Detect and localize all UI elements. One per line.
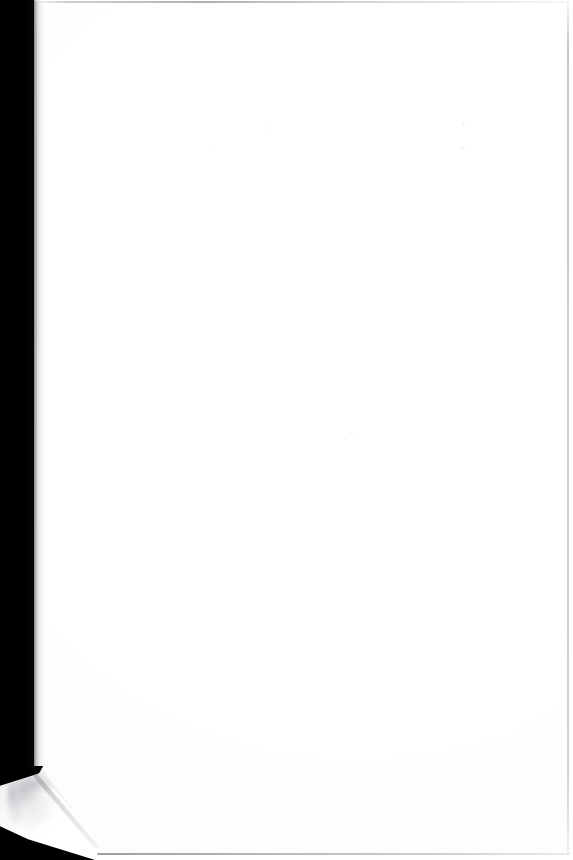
scan-speck — [212, 147, 215, 149]
page-left-edge — [36, 3, 37, 773]
scan-speck — [350, 432, 353, 434]
page-right-edge — [567, 2, 569, 854]
scan-speck — [266, 127, 268, 129]
scanned-page-canvas — [0, 0, 573, 860]
page-right-margin — [569, 0, 573, 860]
page-top-edge — [33, 1, 570, 3]
page-body-text — [44, 14, 563, 846]
folded-bottom-left-corner — [0, 766, 108, 860]
gutter-shadow-falloff — [32, 0, 46, 860]
page-bottom-edge — [30, 853, 570, 855]
scan-speck — [462, 123, 465, 126]
scan-speck — [461, 147, 465, 149]
paper-sheet — [0, 0, 573, 860]
